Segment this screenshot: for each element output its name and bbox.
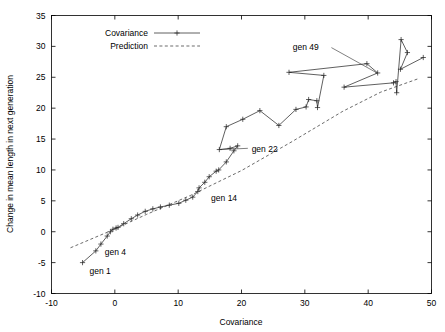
- x-tick-label: 20: [237, 298, 247, 308]
- legend-label-prediction: Prediction: [110, 41, 148, 51]
- annotation-label: gen 49: [293, 42, 319, 52]
- y-tick-label: 20: [36, 103, 46, 113]
- x-tick-label: 40: [363, 298, 373, 308]
- x-tick-label: 10: [173, 298, 183, 308]
- y-axis-label: Change in mean length in next generation: [5, 75, 15, 233]
- x-tick-label: 50: [427, 298, 437, 308]
- y-tick-label: 25: [36, 72, 46, 82]
- y-tick-label: 10: [36, 165, 46, 175]
- y-tick-label: 35: [36, 11, 46, 21]
- y-tick-label: -10: [33, 289, 46, 299]
- y-tick-label: 5: [41, 196, 46, 206]
- y-tick-label: 0: [41, 227, 46, 237]
- chart-container: -1001020304050 -10-505101520253035 Covar…: [0, 0, 445, 332]
- annotation-label: gen 14: [211, 193, 237, 203]
- annotation-label: gen 4: [105, 247, 127, 257]
- y-tick-label: -5: [38, 258, 46, 268]
- legend-label-covariance: Covariance: [105, 28, 148, 38]
- annotation-label: gen 22: [252, 144, 278, 154]
- x-tick-label: -10: [45, 298, 58, 308]
- y-tick-label: 15: [36, 134, 46, 144]
- x-tick-label: 30: [300, 298, 310, 308]
- x-axis-label: Covariance: [220, 317, 263, 327]
- annotation-label: gen 1: [90, 266, 112, 276]
- x-tick-label: 0: [112, 298, 117, 308]
- covariance-vs-change-scatter-line-chart: -1001020304050 -10-505101520253035 Covar…: [0, 0, 445, 332]
- y-tick-label: 30: [36, 41, 46, 51]
